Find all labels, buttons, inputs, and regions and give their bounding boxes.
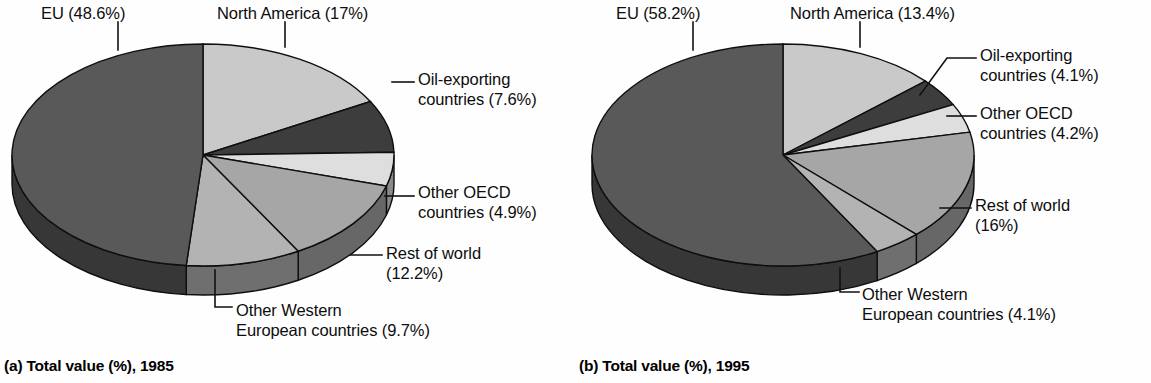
slice-label-other-western-europe-a-line1: Other Western — [236, 301, 342, 321]
slice-label-eu-a: EU (48.6%) — [41, 4, 125, 24]
slice-label-other-oecd-b-line2: countries (4.2%) — [980, 124, 1099, 144]
slice-label-north-america-a: North America (17%) — [217, 4, 368, 24]
slice-label-oil-exporting-a-line1: Oil-exporting — [418, 70, 510, 90]
slice-label-other-oecd-b-line1: Other OECD — [980, 104, 1073, 124]
slice-label-oil-exporting-a-line2: countries (7.6%) — [418, 90, 537, 110]
slice-label-other-western-europe-b-line2: European countries (4.1%) — [862, 305, 1056, 325]
panel-b-caption: (b) Total value (%), 1995 — [579, 357, 749, 375]
slice-label-oil-exporting-b-line2: countries (4.1%) — [980, 66, 1099, 86]
slice-label-other-oecd-a-line2: countries (4.9%) — [418, 203, 537, 223]
slice-label-rest-of-world-a-line1: Rest of world — [386, 244, 481, 264]
slice-label-other-western-europe-a-line2: European countries (9.7%) — [236, 321, 430, 341]
slice-label-eu-b: EU (58.2%) — [616, 4, 700, 24]
slice-label-north-america-b: North America (13.4%) — [790, 4, 955, 24]
panel-a-caption: (a) Total value (%), 1985 — [4, 357, 174, 375]
pie-chart-panel-b: EU (58.2%) North America (13.4%) Oil-exp… — [575, 0, 1150, 383]
slice-label-rest-of-world-b-line1: Rest of world — [975, 196, 1070, 216]
slice-label-other-western-europe-b-line1: Other Western — [862, 285, 968, 305]
pie-top-surface — [12, 44, 394, 266]
slice-label-rest-of-world-a-line2: (12.2%) — [386, 264, 443, 284]
slice-label-rest-of-world-b-line2: (16%) — [975, 216, 1019, 236]
slice-label-other-oecd-a-line1: Other OECD — [418, 183, 511, 203]
slice-label-oil-exporting-b-line1: Oil-exporting — [980, 46, 1072, 66]
pie-chart-panel-a: EU (48.6%) North America (17%) Oil-expor… — [0, 0, 575, 383]
pie-top-surface — [592, 44, 974, 266]
